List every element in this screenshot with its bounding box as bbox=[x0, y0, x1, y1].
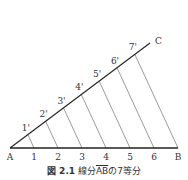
point-c-label: C bbox=[155, 36, 162, 46]
ray-point-label-1: 1' bbox=[22, 123, 30, 133]
parallel-line-2 bbox=[46, 121, 58, 148]
parallel-line-6 bbox=[117, 68, 154, 148]
point-b-label: B bbox=[175, 152, 182, 162]
base-point-label-1: 1 bbox=[31, 152, 37, 162]
ray-point-label-6: 6' bbox=[111, 56, 119, 66]
parallel-line-5 bbox=[99, 81, 130, 148]
base-point-label-3: 3 bbox=[79, 152, 85, 162]
parallel-line-3 bbox=[64, 108, 82, 148]
ray-point-label-4: 4' bbox=[75, 82, 83, 92]
ray-ac bbox=[10, 43, 150, 148]
ray-point-label-5: 5' bbox=[93, 69, 101, 79]
point-a-label: A bbox=[6, 152, 14, 162]
parallel-line-1 bbox=[28, 135, 34, 148]
base-point-label-4: 4 bbox=[103, 152, 109, 162]
figure-number: 図 2.1 bbox=[47, 166, 75, 176]
base-point-label-5: 5 bbox=[127, 152, 133, 162]
ray-point-label-3: 3' bbox=[57, 96, 65, 106]
base-point-label-6: 6 bbox=[151, 152, 157, 162]
ray-point-label-7: 7' bbox=[129, 42, 137, 52]
figure-caption: 図 2.1 線分ABの7等分 bbox=[0, 164, 188, 177]
segment-name: AB bbox=[96, 166, 108, 176]
parallel-line-7 bbox=[135, 54, 178, 148]
caption-suffix: の7等分 bbox=[108, 166, 141, 176]
line-division-diagram: 1'12'23'34'45'56'67'ABC bbox=[0, 0, 188, 180]
parallel-line-4 bbox=[81, 94, 106, 148]
ray-point-label-2: 2' bbox=[40, 109, 48, 119]
caption-prefix: 線分 bbox=[78, 166, 96, 176]
base-point-label-2: 2 bbox=[55, 152, 61, 162]
